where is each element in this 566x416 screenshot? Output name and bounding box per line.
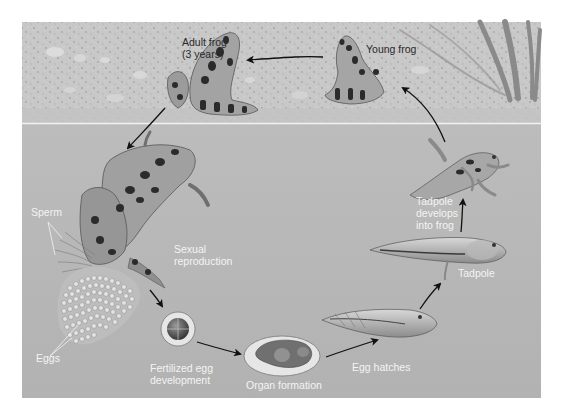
label-sperm: Sperm [31,206,62,218]
label-eggs: Eggs [36,352,60,364]
frog-life-cycle-diagram: Adult frog (3 years) Young frog Sexual r… [0,0,566,416]
label-sexual-reproduction: Sexual reproduction [174,243,232,267]
organ-formation-illustration [244,336,320,376]
label-organ-formation: Organ formation [246,379,322,391]
label-young-frog: Young frog [366,43,416,55]
fertilized-egg-illustration [161,312,195,346]
label-fertilized-egg: Fertilized egg development [150,362,213,386]
label-tadpole: Tadpole [458,267,495,279]
label-egg-hatches: Egg hatches [352,361,410,373]
label-tadpole-develops: Tadpole develops into frog [416,195,458,231]
land-area [22,22,541,123]
label-adult-frog: Adult frog (3 years) [182,36,227,60]
diagram-canvas [0,0,566,416]
